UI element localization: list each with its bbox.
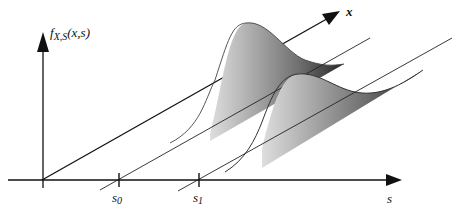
s-axis-arrow-icon — [386, 174, 402, 186]
y-axis-arrow-icon — [37, 32, 49, 52]
x-axis-arrow-icon — [322, 11, 340, 25]
tick-label-s1: s1 — [193, 190, 203, 206]
y-axis — [37, 32, 49, 188]
x-axis-label: x — [345, 4, 353, 19]
s-axis-label: s — [387, 191, 392, 206]
y-axis-label: fX,S(x,s) — [50, 25, 90, 42]
tick-label-s0: s0 — [112, 190, 122, 206]
joint-density-diagram: fX,S(x,s) x s s0 s1 — [0, 0, 476, 215]
